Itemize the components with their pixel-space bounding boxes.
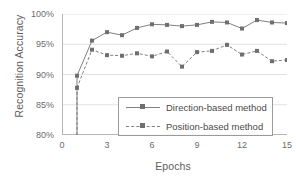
legend-item-position-based: Position-based method	[119, 117, 272, 136]
x-tick-label: 3	[104, 140, 109, 150]
legend-line-dashed-icon	[126, 121, 160, 133]
x-tick-label: 0	[59, 140, 64, 150]
data-point-marker	[255, 18, 259, 22]
recognition-accuracy-line-chart: Recognition Accuracy 80%85%90%95%100% 03…	[0, 0, 296, 179]
data-point-marker	[240, 27, 244, 31]
x-tick-label: 12	[237, 140, 247, 150]
data-point-marker	[135, 26, 139, 30]
data-point-marker	[270, 20, 274, 24]
data-point-marker	[75, 74, 79, 78]
data-point-marker	[240, 53, 244, 57]
x-axis-title: Epochs	[56, 160, 290, 172]
y-tick-label: 80%	[0, 130, 54, 140]
y-tick-label: 95%	[0, 39, 54, 49]
y-tick-label: 100%	[0, 9, 54, 19]
legend-label-position-based: Position-based method	[166, 121, 263, 132]
data-point-marker	[165, 23, 169, 27]
y-tick-label: 90%	[0, 70, 54, 80]
x-axis-tick-labels: 03691215	[62, 139, 287, 153]
data-point-marker	[135, 51, 139, 55]
data-point-marker	[255, 49, 259, 53]
data-point-marker	[105, 53, 109, 57]
data-point-marker	[225, 43, 229, 47]
x-tick-label: 6	[149, 140, 154, 150]
data-point-marker	[165, 50, 169, 54]
data-point-marker	[285, 58, 287, 62]
data-point-marker	[105, 30, 109, 34]
data-point-marker	[210, 20, 214, 24]
x-tick-label: 15	[282, 140, 292, 150]
y-axis-tick-labels: 80%85%90%95%100%	[0, 14, 58, 135]
data-point-marker	[210, 49, 214, 53]
data-point-marker	[285, 21, 287, 25]
data-point-marker	[75, 86, 79, 90]
data-point-marker	[180, 24, 184, 28]
data-point-marker	[120, 33, 124, 37]
legend-line-solid-icon	[126, 102, 160, 114]
data-point-marker	[90, 48, 94, 52]
data-point-marker	[150, 22, 154, 26]
data-point-marker	[225, 20, 229, 24]
x-tick-label: 9	[194, 140, 199, 150]
data-point-marker	[90, 39, 94, 43]
data-point-marker	[270, 59, 274, 63]
data-point-marker	[150, 54, 154, 58]
data-point-marker	[195, 23, 199, 27]
legend-label-direction-based: Direction-based method	[166, 102, 267, 113]
chart-legend: Direction-based method Position-based me…	[118, 97, 273, 136]
data-point-marker	[180, 65, 184, 69]
legend-item-direction-based: Direction-based method	[119, 98, 272, 117]
y-tick-label: 85%	[0, 100, 54, 110]
data-point-marker	[195, 50, 199, 54]
data-point-marker	[120, 54, 124, 58]
